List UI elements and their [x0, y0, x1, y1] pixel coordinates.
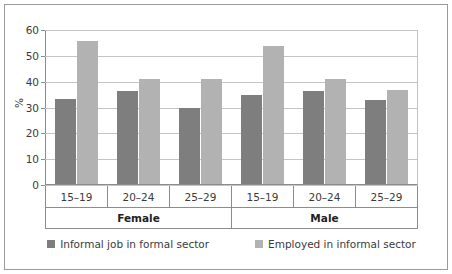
x-tick-label: 25–29 — [356, 186, 417, 207]
x-tick-label: 20–24 — [108, 186, 170, 207]
y-tick-mark — [41, 159, 45, 160]
bar-employed-in-informal-sector — [387, 90, 408, 184]
bar-employed-in-informal-sector — [263, 46, 284, 184]
bar-group — [170, 31, 232, 184]
bar-group — [355, 31, 417, 184]
bar-employed-in-informal-sector — [77, 41, 98, 184]
y-tick-mark — [41, 82, 45, 83]
x-group-label: Male — [232, 208, 417, 228]
legend-swatch — [47, 240, 55, 248]
legend-item: Informal job in formal sector — [47, 238, 209, 250]
bar-informal-job-in-formal-sector — [303, 91, 324, 184]
bar-employed-in-informal-sector — [201, 79, 222, 184]
y-tick-mark — [41, 133, 45, 134]
bar-informal-job-in-formal-sector — [55, 99, 76, 184]
plot-area-wrapper: 0102030405060 — [45, 30, 418, 185]
bar-informal-job-in-formal-sector — [179, 108, 200, 185]
y-tick-label: 50 — [26, 50, 39, 62]
y-tick-label: 60 — [26, 24, 39, 36]
x-tick-label: 20–24 — [294, 186, 356, 207]
x-tick-label: 15–19 — [232, 186, 294, 207]
bar-group — [231, 31, 293, 184]
bar-group — [108, 31, 170, 184]
group-axis: FemaleMale — [45, 208, 418, 229]
y-tick-mark — [41, 30, 45, 31]
bar-informal-job-in-formal-sector — [365, 100, 386, 184]
bar-employed-in-informal-sector — [325, 79, 346, 184]
bar-group — [293, 31, 355, 184]
x-tick-label: 15–19 — [46, 186, 108, 207]
legend-label: Employed in informal sector — [268, 238, 416, 250]
bar-employed-in-informal-sector — [139, 79, 160, 184]
legend-item: Employed in informal sector — [255, 238, 416, 250]
bar-informal-job-in-formal-sector — [241, 95, 262, 184]
chart-figure: % 0102030405060 15–1920–2425–2915–1920–2… — [0, 0, 452, 274]
y-tick-mark — [41, 56, 45, 57]
y-tick-label: 10 — [26, 153, 39, 165]
x-group-label: Female — [46, 208, 232, 228]
y-tick-label: 30 — [26, 102, 39, 114]
chart-legend: Informal job in formal sectorEmployed in… — [45, 238, 418, 250]
legend-label: Informal job in formal sector — [60, 238, 209, 250]
legend-swatch — [255, 240, 263, 248]
bar-informal-job-in-formal-sector — [117, 91, 138, 184]
x-tick-label: 25–29 — [170, 186, 232, 207]
category-axis: 15–1920–2425–2915–1920–2425–29 — [45, 186, 418, 208]
bar-group — [46, 31, 108, 184]
y-tick-label: 40 — [26, 76, 39, 88]
bars-layer — [46, 31, 417, 184]
y-axis-label: % — [13, 98, 25, 108]
y-tick-label: 0 — [32, 179, 39, 191]
y-tick-label: 20 — [26, 127, 39, 139]
y-tick-mark — [41, 108, 45, 109]
